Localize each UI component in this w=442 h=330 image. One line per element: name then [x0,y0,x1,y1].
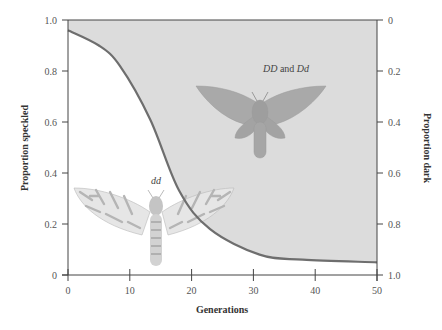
x-tick-label: 30 [248,285,258,296]
y2-tick-label: 0.6 [388,168,401,179]
y-tick-label: 0.2 [45,219,58,230]
y2-tick-label: 1.0 [388,270,401,281]
x-axis-title: Generations [196,304,248,315]
y-tick-label: 0.6 [45,117,58,128]
y-tick-label: 0.4 [45,168,58,179]
x-tick-label: 50 [372,285,382,296]
left-y-axis-ticks: 00.20.40.60.81.0 [45,15,69,281]
y-tick-label: 0 [52,270,57,281]
right-y-axis-ticks: 00.20.40.60.81.0 [377,15,401,281]
speckled-genotype-label: dd [151,175,162,186]
x-tick-label: 10 [125,285,135,296]
x-tick-label: 40 [310,285,320,296]
y-tick-label: 0.8 [45,66,58,77]
y-tick-label: 1.0 [45,15,58,26]
dark-genotype-label: DD and Dd [262,63,310,74]
y2-tick-label: 0.2 [388,66,401,77]
y2-tick-label: 0 [388,15,393,26]
x-tick-label: 0 [66,285,71,296]
x-tick-label: 20 [187,285,197,296]
y2-tick-label: 0.8 [388,219,401,230]
x-axis-ticks: 01020304050 [66,269,383,296]
left-y-axis-title: Proportion speckled [19,104,30,191]
y2-tick-label: 0.4 [388,117,401,128]
chart: 01020304050 00.20.40.60.81.0 00.20.40.60… [0,0,442,330]
right-y-axis-title: Proportion dark [422,113,433,184]
